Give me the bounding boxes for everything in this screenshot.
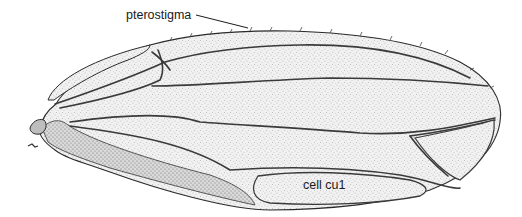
pterostigma-leader-line: [196, 15, 248, 28]
wing-illustration: [0, 0, 522, 217]
cell-cu1-label: cell cu1: [303, 179, 345, 192]
base-fragment: [28, 144, 38, 147]
wing-base: [30, 119, 46, 134]
pterostigma-label: pterostigma: [126, 9, 191, 22]
